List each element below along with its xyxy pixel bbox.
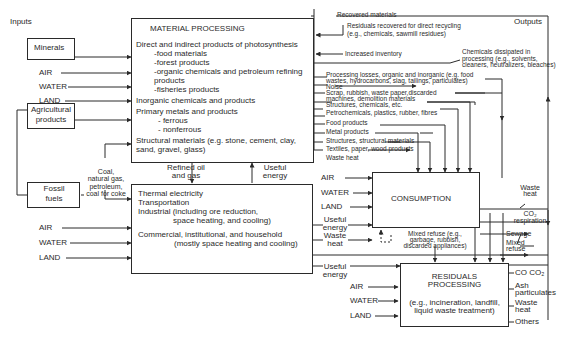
mp-air: AIR (39, 69, 52, 77)
minerals-box: Minerals (27, 38, 75, 60)
useful-energy-label-top: Usefulenergy (257, 164, 293, 181)
out-sewage: Sewage (506, 230, 531, 237)
mp-output: Residuals recovered for direct recycling (347, 23, 461, 29)
mp-output: Structures, structural materials (326, 138, 414, 144)
mp-output: Textiles, paper, wood products (326, 146, 413, 152)
res-useful-energy: Usefulenergy (318, 263, 352, 280)
mp-output: Structures, chemicals, etc. (326, 102, 402, 108)
residuals-subtitle: (e.g., incineration, landfill,liquid was… (401, 299, 508, 316)
mp-output: Increased inventory (345, 51, 402, 57)
refined-oil-label: Refined oiland gas (160, 164, 212, 181)
energy-conversion-box: Thermal electricity Transportation Indus… (131, 184, 313, 274)
mp-output: Petrochemicals, plastics, rubber, fibres (326, 110, 437, 116)
cons-water: WATER (321, 189, 349, 197)
agricultural-box: Agricultural products (27, 103, 75, 129)
fossil-label-2: fuels (29, 195, 79, 203)
res-land: LAND (350, 312, 371, 320)
mp-line: -fisheries products (154, 86, 219, 94)
agricultural-label-2: products (29, 116, 73, 124)
out-co2-respiration: CO₂respiration (512, 211, 548, 224)
res-water: WATER (350, 297, 378, 305)
energy-water: WATER (39, 239, 67, 247)
cons-air: AIR (321, 174, 334, 182)
residuals-title: RESIDUALSPROCESSING (401, 273, 508, 290)
mp-output: cleaners, neutralizers, bleaches) (462, 62, 556, 68)
mp-line: sand, gravel, glass) (136, 146, 205, 154)
res-out-others: Others (515, 318, 539, 326)
res-air: AIR (350, 283, 363, 291)
mp-land: LAND (39, 97, 60, 105)
mp-line: Inorganic chemicals and products (136, 97, 255, 105)
mp-output: Food products (326, 120, 368, 126)
mp-output: (e.g., chemicals, sawmill residues) (347, 31, 446, 37)
material-processing-box: MATERIAL PROCESSING Direct and indirect … (131, 18, 314, 163)
mp-output: wastes, hydrocarbons, slag, tailings, pa… (326, 78, 468, 84)
energy-line: (mostly space heating and cooling) (174, 240, 298, 248)
energy-land: LAND (39, 254, 60, 262)
outputs-heading: Outputs (514, 18, 542, 26)
consumption-box: CONSUMPTION (372, 172, 480, 228)
res-out-waste-heat: Wasteheat (515, 299, 537, 313)
fossil-label-1: Fossil (29, 185, 79, 193)
res-out-ash: Ashparticulates (515, 282, 556, 296)
cons-waste-heat: Wasteheat (320, 232, 350, 249)
fossil-products-label: Coal, natural gas, petroleum, coal for c… (82, 168, 130, 197)
mp-line: - nonferrous (158, 126, 201, 134)
minerals-label: Minerals (34, 44, 64, 52)
mixed-refuse-label: Mixed refuse (e.g., garbage, rubbish, di… (398, 231, 472, 250)
mp-output: Recovered materials (337, 12, 397, 18)
energy-air: AIR (39, 224, 52, 232)
fossil-fuels-box: Fossil fuels (27, 182, 80, 208)
cons-land: LAND (321, 203, 342, 211)
mp-title: MATERIAL PROCESSING (150, 25, 245, 33)
res-out-co: CO CO₂ (515, 269, 544, 277)
residuals-processing-box: RESIDUALSPROCESSING (e.g., incineration,… (400, 263, 509, 327)
mp-water: WATER (39, 83, 67, 91)
mp-output: Metal products (326, 129, 369, 135)
consumption-title: CONSUMPTION (391, 195, 451, 203)
out-mixed-refuse: Mixedrefuse (506, 240, 525, 253)
energy-line: space heating, and cooling) (173, 217, 271, 225)
out-waste-heat: Wasteheat (517, 185, 543, 198)
mp-output: Waste heat (326, 155, 359, 161)
agricultural-label-1: Agricultural (29, 106, 73, 114)
inputs-heading: Inputs (10, 18, 32, 26)
